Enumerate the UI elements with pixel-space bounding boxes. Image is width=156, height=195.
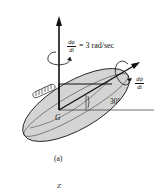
next-figure-axis-label: Z [57,182,61,190]
angle-label: 30° [110,97,121,106]
precession-rate-fraction: dφ dt [67,39,76,53]
precession-rate-value: = 3 rad/sec [79,41,114,50]
spin-denominator: dt [137,84,142,90]
figure-caption: (a) [54,154,62,163]
spin-numerator: dψ [136,76,143,82]
football-diagram [0,0,156,195]
precession-numerator: dφ [68,39,74,45]
football-ellipsoid [12,54,140,156]
spin-rate-fraction: dψ dt [135,76,144,90]
precession-denominator: dt [69,47,74,53]
center-of-mass-label: G [55,113,60,122]
